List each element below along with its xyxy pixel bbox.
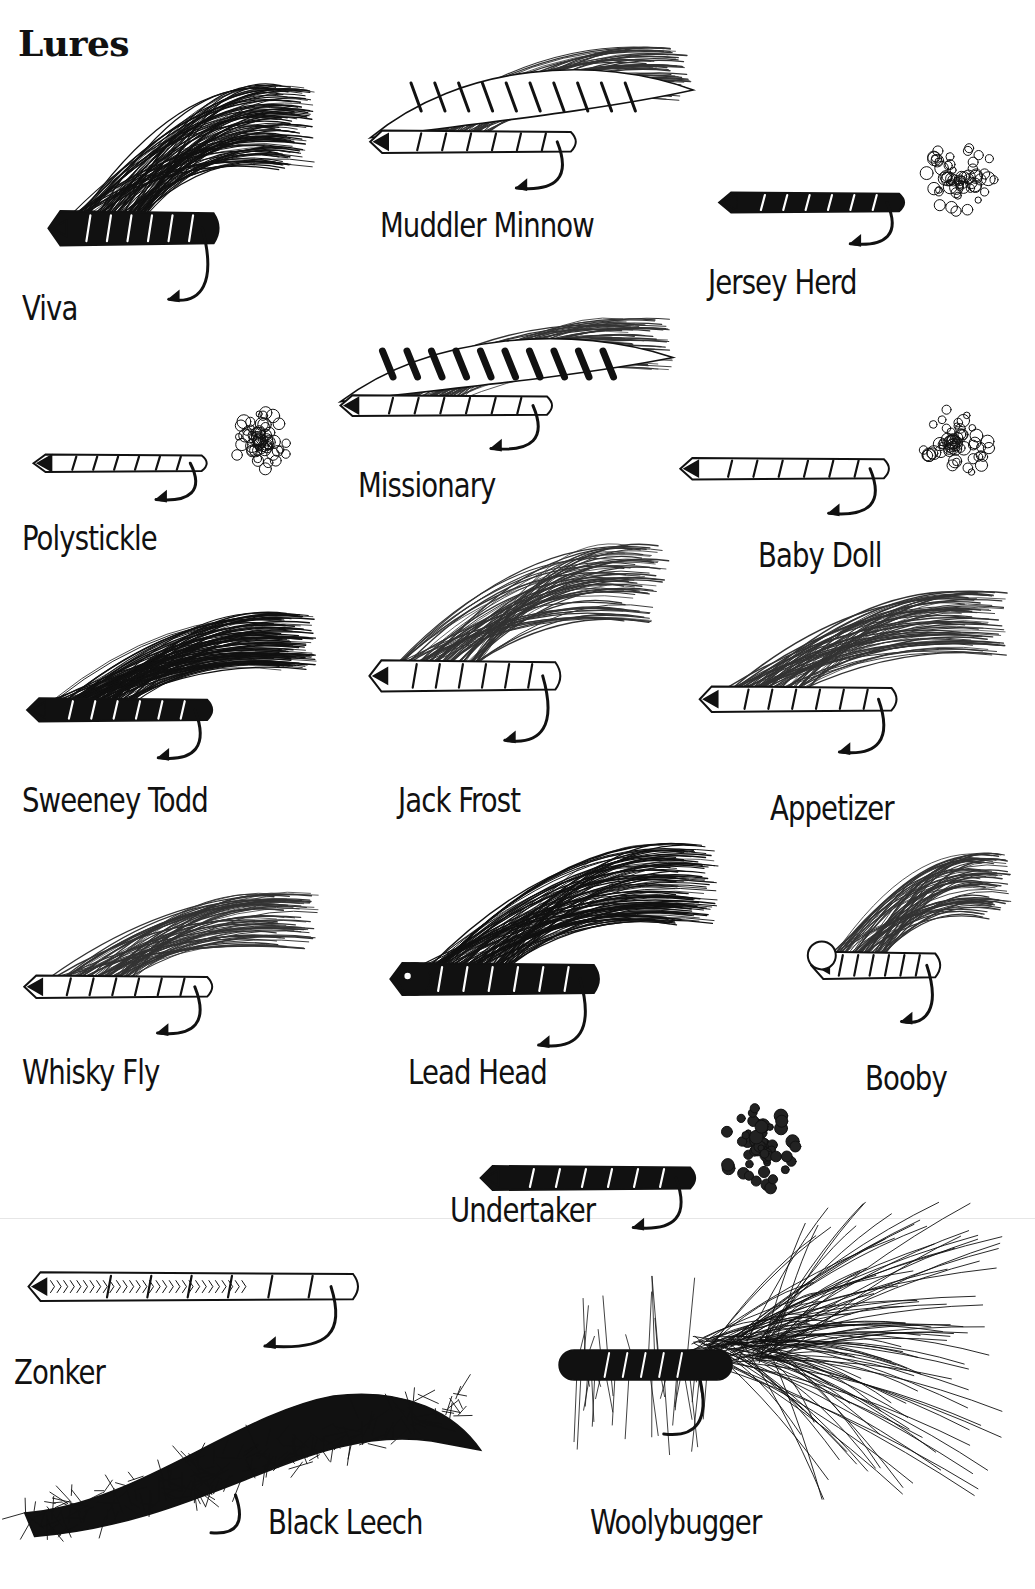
fly-lure-icon (550, 1200, 1005, 1500)
lure-illustration-jersey-herd (710, 125, 1015, 250)
lure-label: Baby Doll (758, 535, 882, 575)
lure-illustration-black-leech (15, 1360, 505, 1540)
lure-illustration-zonker (12, 1175, 562, 1355)
lure-label: Whisky Fly (22, 1052, 159, 1092)
lure-illustration-booby (805, 860, 1015, 1030)
fly-lure-icon (15, 1360, 505, 1540)
fly-lure-icon (805, 860, 1015, 1030)
lure-illustration-baby-doll (670, 385, 1015, 520)
lure-illustration-jack-frost (360, 555, 675, 750)
lure-illustration-woolybugger (550, 1200, 1005, 1500)
fly-lure-icon (670, 385, 1015, 520)
lure-label: Black Leech (268, 1502, 423, 1542)
lure-illustration-sweeney-todd (18, 620, 323, 765)
lure-label: Muddler Minnow (380, 205, 594, 245)
fly-lure-icon (360, 555, 675, 750)
fly-lure-icon (12, 1175, 562, 1355)
lure-label: Polystickle (22, 518, 157, 558)
lure-label: Viva (22, 288, 77, 328)
lure-label: Appetizer (770, 788, 894, 828)
fly-lure-icon (40, 95, 320, 310)
page-title: Lures (18, 22, 129, 64)
fly-lure-icon (15, 900, 325, 1040)
fly-lure-icon (360, 55, 700, 195)
lure-label: Jack Frost (398, 780, 520, 820)
fly-lure-icon (18, 620, 323, 765)
fly-lure-icon (25, 395, 310, 505)
lure-illustration-missionary (330, 325, 680, 455)
lure-illustration-whisky-fly (15, 900, 325, 1040)
fly-lure-icon (690, 600, 1015, 760)
lure-label: Woolybugger (590, 1502, 761, 1542)
lure-label: Booby (865, 1058, 947, 1098)
lure-illustration-lead-head (380, 855, 725, 1055)
lure-illustration-muddler-minnow (360, 55, 700, 195)
fly-lure-icon (330, 325, 680, 455)
lure-label: Jersey Herd (708, 262, 857, 302)
lure-illustration-polystickle (25, 395, 310, 505)
lure-label: Sweeney Todd (22, 780, 208, 820)
fly-lure-icon (380, 855, 725, 1055)
fly-lure-icon (710, 125, 1015, 250)
lure-illustration-viva (40, 95, 320, 310)
lure-illustration-appetizer (690, 600, 1015, 760)
lure-label: Missionary (358, 465, 496, 505)
